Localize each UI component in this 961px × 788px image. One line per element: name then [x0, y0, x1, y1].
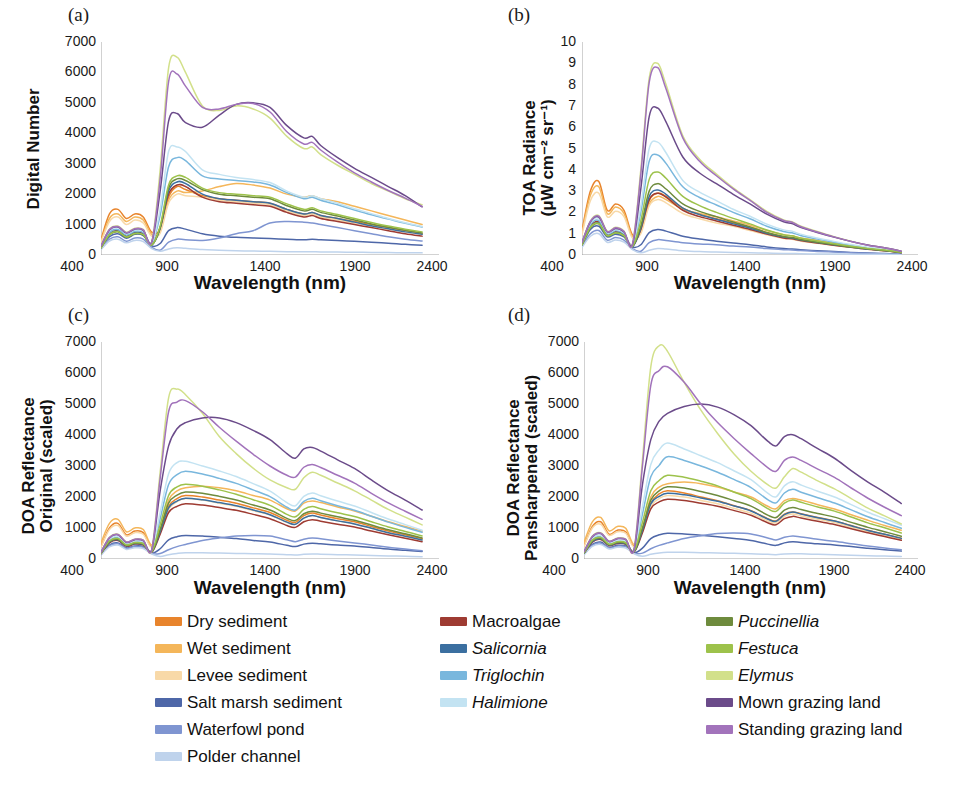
legend-item[interactable]: Salicornia	[440, 635, 561, 662]
y-tick-label: 5000	[36, 395, 96, 411]
legend-item[interactable]: Triglochin	[440, 662, 561, 689]
x-tick-label: 400	[52, 258, 92, 274]
legend-label: Macroalgae	[472, 612, 561, 632]
series-line	[584, 443, 901, 552]
y-tick-label: 3000	[522, 457, 579, 473]
y-tick-label: 4	[546, 161, 576, 177]
legend-swatch	[155, 617, 182, 626]
x-tick-label: 900	[147, 562, 187, 578]
x-tick-label: 900	[628, 562, 668, 578]
y-tick-label: 1000	[522, 519, 579, 535]
legend-label: Halimione	[472, 693, 548, 713]
y-tick-label: 1000	[36, 519, 96, 535]
y-tick-label: 5000	[522, 395, 579, 411]
legend-item[interactable]: Festuca	[706, 635, 902, 662]
series-line	[101, 71, 422, 246]
y-tick-label: 4000	[36, 124, 96, 140]
legend-item[interactable]: Levee sediment	[155, 662, 342, 689]
legend-item[interactable]: Polder channel	[155, 743, 342, 770]
x-tick-label: 2400	[412, 562, 452, 578]
y-tick-label: 6000	[36, 63, 96, 79]
legend-item[interactable]: Salt marsh sediment	[155, 689, 342, 716]
y-tick-label: 2	[546, 203, 576, 219]
y-tick-label: 7000	[522, 333, 579, 349]
axis-lines	[584, 342, 918, 559]
legend-item[interactable]: Puccinellia	[706, 608, 902, 635]
legend-item[interactable]: Dry sediment	[155, 608, 342, 635]
panel-b-xlabel: Wavelength (nm)	[580, 272, 920, 294]
panel-c-plot	[101, 342, 439, 559]
series-line	[584, 457, 901, 553]
legend-item[interactable]: Mown grazing land	[706, 689, 902, 716]
legend-swatch	[155, 698, 182, 707]
series-line	[584, 345, 901, 554]
legend-label: Triglochin	[472, 666, 544, 686]
legend-swatch	[706, 671, 733, 680]
legend-item[interactable]: Standing grazing land	[706, 716, 902, 743]
legend-label: Salicornia	[472, 639, 547, 659]
panel-a: (a) Digital Number 010002000300040005000…	[0, 0, 480, 300]
y-tick-label: 3	[546, 182, 576, 198]
legend-item[interactable]: Waterfowl pond	[155, 716, 342, 743]
legend-swatch	[440, 617, 467, 626]
legend-swatch	[155, 752, 182, 761]
legend-swatch	[155, 725, 182, 734]
legend-swatch	[440, 698, 467, 707]
y-tick-label: 4000	[36, 426, 96, 442]
panel-d: (d) DOA Reflectance Pansharpened (scaled…	[480, 300, 961, 608]
panel-c-letter: (c)	[68, 304, 89, 326]
series-line	[584, 366, 901, 553]
y-tick-label: 9	[546, 54, 576, 70]
x-tick-label: 400	[534, 562, 574, 578]
y-tick-label: 6	[546, 118, 576, 134]
y-tick-label: 1000	[36, 216, 96, 232]
panel-a-ylabel: Digital Number	[25, 59, 43, 239]
panel-d-xlabel: Wavelength (nm)	[580, 577, 920, 599]
legend-label: Standing grazing land	[738, 720, 902, 740]
legend-label: Dry sediment	[187, 612, 287, 632]
legend-item[interactable]: Wet sediment	[155, 635, 342, 662]
y-tick-label: 3000	[36, 155, 96, 171]
legend-label: Puccinellia	[738, 612, 819, 632]
axis-lines	[582, 42, 918, 255]
legend-column-1: Dry sedimentWet sedimentLevee sedimentSa…	[155, 608, 342, 770]
x-tick-label: 1400	[725, 562, 765, 578]
series-line	[582, 154, 901, 252]
x-tick-label: 400	[532, 258, 572, 274]
y-tick-label: 7000	[36, 33, 96, 49]
legend-swatch	[706, 644, 733, 653]
y-tick-label: 7	[546, 97, 576, 113]
legend: Dry sedimentWet sedimentLevee sedimentSa…	[0, 608, 961, 788]
x-tick-label: 1900	[335, 562, 375, 578]
y-tick-label: 6000	[36, 364, 96, 380]
legend-label: Mown grazing land	[738, 693, 881, 713]
x-tick-label: 2400	[890, 562, 930, 578]
legend-label: Salt marsh sediment	[187, 693, 342, 713]
series-line	[101, 55, 422, 246]
panel-b-plot	[582, 42, 918, 255]
legend-label: Wet sediment	[187, 639, 291, 659]
series-line	[101, 400, 422, 553]
y-tick-label: 7000	[36, 333, 96, 349]
legend-item[interactable]: Elymus	[706, 662, 902, 689]
legend-swatch	[440, 671, 467, 680]
y-tick-label: 2000	[36, 488, 96, 504]
legend-swatch	[706, 617, 733, 626]
panel-a-letter: (a)	[68, 4, 89, 26]
panel-c-xlabel: Wavelength (nm)	[100, 577, 440, 599]
legend-label: Levee sediment	[187, 666, 307, 686]
y-tick-label: 6000	[522, 364, 579, 380]
y-tick-label: 2000	[36, 185, 96, 201]
x-tick-label: 1900	[814, 562, 854, 578]
legend-item[interactable]: Halimione	[440, 689, 561, 716]
legend-swatch	[155, 644, 182, 653]
y-tick-label: 5000	[36, 94, 96, 110]
series-line	[101, 194, 422, 242]
legend-item[interactable]: Macroalgae	[440, 608, 561, 635]
panel-d-plot	[584, 342, 918, 559]
y-tick-label: 2000	[522, 488, 579, 504]
x-tick-label: 400	[52, 562, 92, 578]
panel-a-plot	[101, 42, 439, 255]
y-tick-label: 3000	[36, 457, 96, 473]
legend-swatch	[440, 644, 467, 653]
